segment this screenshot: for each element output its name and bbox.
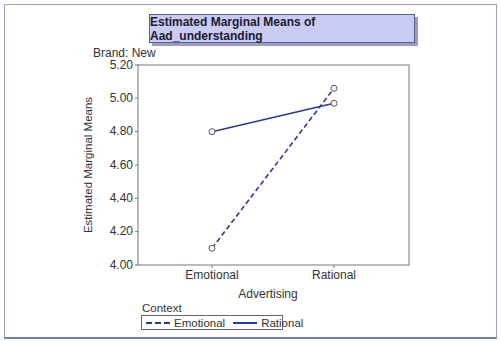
series-rational-line — [212, 103, 334, 131]
legend: Emotional Rational — [141, 315, 283, 330]
legend-label: Rational — [261, 317, 303, 329]
legend-label: Emotional — [174, 317, 225, 329]
marker-rational-rational — [331, 100, 337, 106]
marker-rational-emotional — [331, 85, 337, 91]
legend-item-emotional: Emotional — [146, 317, 225, 329]
solid-line-swatch-icon — [233, 322, 257, 324]
marker-emotional-rational — [209, 129, 215, 135]
x-tick-label: Rational — [312, 268, 356, 282]
x-axis-label: Advertising — [0, 287, 501, 301]
legend-item-rational: Rational — [233, 317, 303, 329]
x-tick-label: Emotional — [185, 268, 238, 282]
series-emotional-line — [212, 88, 334, 248]
dashed-line-swatch-icon — [146, 322, 170, 324]
legend-title: Context — [142, 302, 182, 314]
plot-border — [138, 65, 409, 265]
marker-emotional-emotional — [209, 245, 215, 251]
